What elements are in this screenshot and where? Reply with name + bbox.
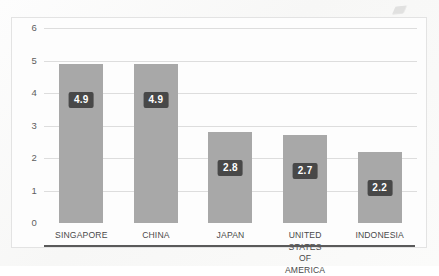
bar[interactable] (134, 64, 178, 223)
x-axis-category-label: UNITED STATES OF AMERICA (285, 230, 325, 276)
bar-group: 2.8JAPAN (193, 28, 268, 223)
x-axis-category-label: JAPAN (217, 230, 245, 242)
y-axis-tick-label: 6 (32, 22, 37, 33)
plot-area: 0123456 4.9SINGAPORE4.9CHINA2.8JAPAN2.7U… (44, 28, 417, 223)
chart-frame: 0123456 4.9SINGAPORE4.9CHINA2.8JAPAN2.7U… (11, 17, 427, 248)
y-axis-tick-label: 4 (32, 87, 37, 98)
bar-value-label: 4.9 (69, 92, 94, 108)
y-axis-tick-label: 0 (32, 217, 37, 228)
bar[interactable] (208, 132, 252, 223)
y-axis-tick-label: 5 (32, 55, 37, 66)
bar-group: 4.9CHINA (119, 28, 194, 223)
bar-value-label: 2.7 (293, 163, 318, 179)
x-axis-category-label: CHINA (142, 230, 170, 242)
bar-group: 4.9SINGAPORE (44, 28, 119, 223)
y-axis-tick-label: 2 (32, 152, 37, 163)
scan-artifact-mark (392, 5, 407, 14)
bar-value-label: 4.9 (143, 92, 168, 108)
x-axis-category-label: SINGAPORE (55, 230, 107, 242)
bar-value-label: 2.8 (218, 160, 243, 176)
y-axis-tick-label: 1 (32, 185, 37, 196)
x-axis-line (44, 245, 415, 247)
y-axis-tick-label: 3 (32, 120, 37, 131)
bars-layer: 4.9SINGAPORE4.9CHINA2.8JAPAN2.7UNITED ST… (44, 28, 417, 223)
bar-value-label: 2.2 (367, 180, 392, 196)
x-axis-category-label: INDONESIA (355, 230, 404, 242)
bar[interactable] (59, 64, 103, 223)
bar-group: 2.2INDONESIA (342, 28, 417, 223)
bar-group: 2.7UNITED STATES OF AMERICA (268, 28, 343, 223)
